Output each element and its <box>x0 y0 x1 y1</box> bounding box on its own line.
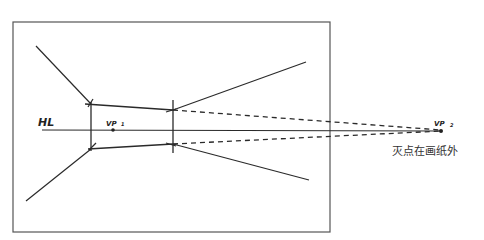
vp2-subscript: 2 <box>450 122 454 128</box>
vp1-subscript: 1 <box>121 121 124 127</box>
lower-left-diagonal <box>26 149 91 201</box>
hl-label: HL <box>38 116 54 129</box>
vp2-point <box>439 129 443 133</box>
top-edge <box>85 104 173 110</box>
vp1-point <box>111 128 115 132</box>
perspective-diagram: HL VP 1 VP 2 <box>0 0 484 240</box>
picture-frame <box>13 22 330 232</box>
bottom-edge <box>88 144 173 149</box>
vp1-label: VP <box>106 120 117 128</box>
lower-right-diagonal <box>173 144 309 180</box>
vp2-label: VP <box>434 120 445 128</box>
caption-vanishing-point-outside: 灭点在画纸外 <box>392 142 458 158</box>
horizon-line <box>42 130 441 131</box>
upper-dashed-line <box>173 110 441 130</box>
upper-left-diagonal <box>36 46 91 104</box>
upper-right-diagonal <box>173 62 306 110</box>
